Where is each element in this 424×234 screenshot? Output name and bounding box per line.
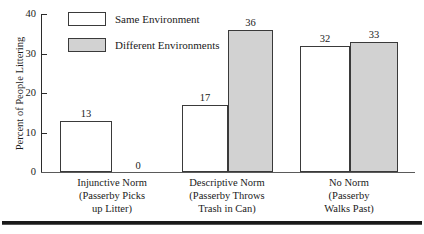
- y-axis-title: Percent of People Littering: [14, 19, 25, 169]
- bar-value-injunctive-diff: 0: [112, 160, 164, 171]
- legend-label-same-environment: Same Environment: [115, 13, 200, 26]
- y-tick-10: [41, 133, 47, 134]
- x-group-label-descriptive-norm: Descriptive Norm (Passerby Throws Trash …: [165, 176, 289, 215]
- bottom-divider: [2, 221, 422, 225]
- bar-value-injunctive-same: 13: [60, 108, 112, 119]
- group-label-line-2: (Passerby Throws: [165, 189, 289, 202]
- group-label-line-1: Injunctive Norm: [48, 176, 176, 189]
- legend-label-different-environments: Different Environments: [115, 39, 220, 52]
- group-label-line-1: Descriptive Norm: [165, 176, 289, 189]
- group-label-line-3: up Litter): [48, 202, 176, 215]
- bar-value-nonorm-diff: 33: [350, 29, 398, 40]
- bar-descriptive-diff: [228, 30, 273, 172]
- y-tick-30: [41, 54, 47, 55]
- bar-nonorm-diff: [350, 42, 398, 172]
- bar-injunctive-same: [60, 121, 112, 172]
- y-tick-label-0: 0: [0, 167, 36, 177]
- bar-descriptive-same: [182, 105, 228, 172]
- bar-value-nonorm-same: 32: [300, 33, 350, 44]
- bar-nonorm-same: [300, 46, 350, 172]
- group-label-line-3: Walks Past): [287, 202, 411, 215]
- group-label-line-3: Trash in Can): [165, 202, 289, 215]
- bar-chart: 40 30 20 10 0 Percent of People Litterin…: [0, 0, 424, 234]
- y-tick-20: [41, 93, 47, 94]
- y-tick-40: [41, 14, 47, 15]
- bar-value-descriptive-same: 17: [182, 92, 228, 103]
- legend-swatch-different-environments: [68, 38, 106, 52]
- x-group-label-injunctive-norm: Injunctive Norm (Passerby Picks up Litte…: [48, 176, 176, 215]
- x-group-label-no-norm: No Norm (Passerby Walks Past): [287, 176, 411, 215]
- group-label-line-2: (Passerby: [287, 189, 411, 202]
- y-tick-label-40: 40: [0, 9, 36, 19]
- x-axis-line: [41, 172, 415, 173]
- legend-swatch-same-environment: [68, 12, 106, 26]
- group-label-line-2: (Passerby Picks: [48, 189, 176, 202]
- bar-value-descriptive-diff: 36: [228, 17, 273, 28]
- group-label-line-1: No Norm: [287, 176, 411, 189]
